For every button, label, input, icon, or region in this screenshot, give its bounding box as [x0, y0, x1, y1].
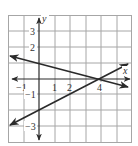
x-tick-4: 4 — [97, 82, 102, 93]
x-tick-1: 1 — [52, 82, 57, 93]
y-tick-2: 2 — [30, 42, 35, 53]
y-tick-neg3: −3 — [25, 121, 36, 132]
y-tick-neg1: −1 — [25, 89, 36, 100]
x-axis-label: x — [122, 65, 128, 76]
x-tick-2: 2 — [67, 82, 72, 93]
y-tick-3: 3 — [30, 26, 35, 37]
y-axis-label: y — [41, 13, 47, 24]
coordinate-graph: y x −1 1 2 4 3 2 −1 −3 — [0, 0, 138, 146]
